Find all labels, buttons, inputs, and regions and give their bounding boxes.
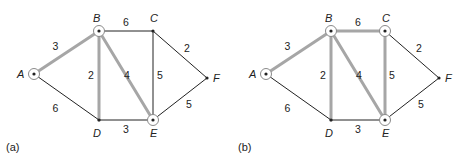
node-label-c: C (382, 13, 390, 24)
node-label-f: F (445, 73, 452, 84)
node-e (151, 118, 154, 121)
caption-a: (a) (6, 142, 19, 153)
edge-e-f (385, 78, 439, 120)
node-label-a: A (249, 69, 256, 80)
edge-weight-c-f: 2 (416, 43, 422, 54)
edge-weight-a-d: 6 (285, 103, 291, 114)
edge-weight-a-b: 3 (285, 41, 291, 52)
node-e (383, 118, 386, 121)
node-label-e: E (150, 128, 157, 139)
node-label-b: B (93, 13, 100, 24)
edge-weight-c-e: 5 (157, 70, 163, 81)
edge-a-d (266, 74, 331, 120)
edge-weight-b-e: 4 (124, 70, 130, 81)
node-label-d: D (93, 128, 101, 139)
edge-e-f (153, 78, 207, 120)
edge-a-b (34, 31, 99, 74)
node-label-e: E (382, 128, 389, 139)
edge-a-d (34, 74, 99, 120)
edge-weight-b-d: 2 (320, 70, 326, 81)
node-f (205, 76, 208, 79)
node-d (329, 118, 332, 121)
node-d (97, 118, 100, 121)
graph-a-drawing (0, 0, 232, 159)
edge-weight-b-e: 4 (356, 70, 362, 81)
edge-weight-e-f: 5 (186, 99, 192, 110)
edge-weight-b-c: 6 (355, 17, 361, 28)
graph-panel-a: (a) 366245235ABCDEF (0, 0, 232, 159)
node-b (97, 29, 100, 32)
node-a (32, 72, 35, 75)
node-c (151, 29, 154, 32)
node-label-a: A (17, 69, 24, 80)
node-label-c: C (150, 13, 158, 24)
graph-b-drawing (232, 0, 464, 159)
edge-weight-b-c: 6 (123, 17, 129, 28)
caption-b: (b) (238, 142, 251, 153)
edge-weight-a-b: 3 (53, 41, 59, 52)
graph-panel-b: (b) 366245235ABCDEF (232, 0, 464, 159)
edge-weight-d-e: 3 (355, 124, 361, 135)
edge-weight-d-e: 3 (123, 124, 129, 135)
edge-a-b (266, 31, 331, 74)
edge-weight-e-f: 5 (418, 99, 424, 110)
edge-weight-c-e: 5 (389, 70, 395, 81)
node-label-b: B (325, 13, 332, 24)
node-label-f: F (213, 73, 220, 84)
edge-weight-c-f: 2 (184, 43, 190, 54)
node-label-d: D (325, 128, 333, 139)
node-c (383, 29, 386, 32)
edge-weight-b-d: 2 (88, 70, 94, 81)
node-b (329, 29, 332, 32)
edge-weight-a-d: 6 (53, 103, 59, 114)
node-f (437, 76, 440, 79)
node-a (264, 72, 267, 75)
